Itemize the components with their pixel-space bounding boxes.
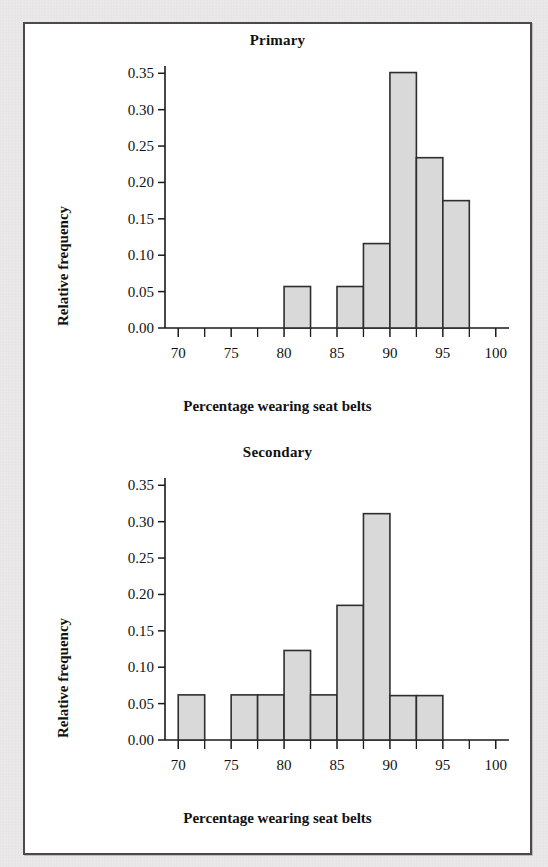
x-tick-label: 80 <box>277 757 292 773</box>
histogram-panel-primary: Primary Relative frequency 0.000.050.100… <box>25 26 530 430</box>
plot-area-secondary: 0.000.050.100.150.200.250.300.3570758085… <box>123 470 513 785</box>
x-axis-label-secondary: Percentage wearing seat belts <box>25 810 530 827</box>
x-tick-label: 85 <box>330 345 345 361</box>
figure-frame: Primary Relative frequency 0.000.050.100… <box>23 22 532 855</box>
histogram-bar <box>363 244 389 328</box>
histogram-panel-secondary: Secondary Relative frequency 0.000.050.1… <box>25 438 530 842</box>
histogram-bar <box>284 650 310 740</box>
x-tick-label: 100 <box>485 757 508 773</box>
y-tick-label: 0.30 <box>128 514 154 530</box>
y-tick-label: 0.15 <box>128 623 154 639</box>
histogram-bar <box>284 287 310 328</box>
x-tick-label: 80 <box>277 345 292 361</box>
scanned-page: Primary Relative frequency 0.000.050.100… <box>0 0 548 867</box>
y-tick-label: 0.15 <box>128 211 154 227</box>
histogram-svg-secondary: 0.000.050.100.150.200.250.300.3570758085… <box>123 470 513 785</box>
histogram-bar <box>390 73 416 328</box>
y-tick-label: 0.10 <box>128 659 154 675</box>
x-tick-label: 70 <box>171 345 186 361</box>
histogram-svg-primary: 0.000.050.100.150.200.250.300.3570758085… <box>123 58 513 373</box>
x-tick-label: 95 <box>435 757 450 773</box>
y-tick-label: 0.25 <box>128 550 154 566</box>
histogram-bar <box>416 158 442 328</box>
y-tick-label: 0.35 <box>128 65 154 81</box>
histogram-bar <box>363 514 389 740</box>
plot-area-primary: 0.000.050.100.150.200.250.300.3570758085… <box>123 58 513 373</box>
x-tick-label: 70 <box>171 757 186 773</box>
y-tick-label: 0.25 <box>128 138 154 154</box>
x-tick-label: 95 <box>435 345 450 361</box>
y-axis-label-primary: Relative frequency <box>55 206 72 326</box>
histogram-bar <box>231 695 257 740</box>
histogram-bar <box>443 201 469 328</box>
y-tick-label: 0.20 <box>128 174 154 190</box>
y-tick-label: 0.30 <box>128 102 154 118</box>
histogram-bar <box>337 287 363 328</box>
x-tick-label: 75 <box>224 757 239 773</box>
panel-title-secondary: Secondary <box>25 444 530 461</box>
histogram-bar <box>178 695 204 740</box>
y-tick-label: 0.20 <box>128 586 154 602</box>
histogram-bar <box>311 695 337 740</box>
x-tick-label: 85 <box>330 757 345 773</box>
y-tick-label: 0.05 <box>128 696 154 712</box>
histogram-bar <box>390 696 416 740</box>
y-tick-label: 0.00 <box>128 320 154 336</box>
y-tick-label: 0.00 <box>128 732 154 748</box>
x-axis-label-primary: Percentage wearing seat belts <box>25 398 530 415</box>
y-tick-label: 0.05 <box>128 284 154 300</box>
panel-title-primary: Primary <box>25 32 530 49</box>
histogram-bar <box>258 695 284 740</box>
y-tick-label: 0.10 <box>128 247 154 263</box>
histogram-bar <box>337 605 363 740</box>
x-tick-label: 100 <box>485 345 508 361</box>
y-axis-label-secondary: Relative frequency <box>55 618 72 738</box>
x-tick-label: 75 <box>224 345 239 361</box>
y-tick-label: 0.35 <box>128 477 154 493</box>
x-tick-label: 90 <box>382 345 397 361</box>
histogram-bar <box>416 696 442 740</box>
x-tick-label: 90 <box>382 757 397 773</box>
